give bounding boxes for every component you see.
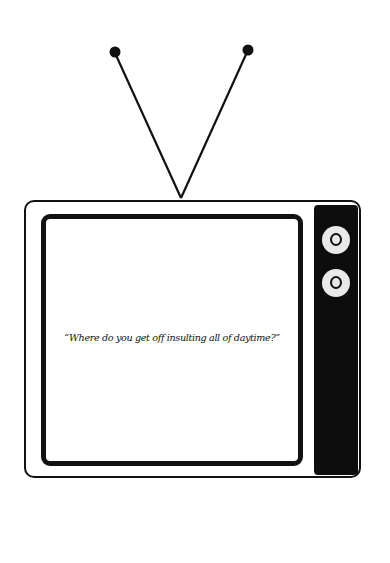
tv-illustration: “Where do you get off insulting all of d… [0,0,390,563]
dial-knob-icon [322,269,350,297]
tv-control-panel [314,205,358,475]
dial-knob-icon [322,226,350,254]
screen-quote: “Where do you get off insulting all of d… [64,332,279,343]
tv-screen: “Where do you get off insulting all of d… [41,214,303,466]
